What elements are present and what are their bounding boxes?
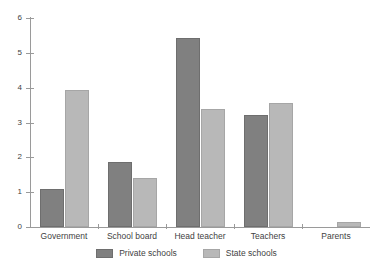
y-tick-label: 0 <box>6 223 22 231</box>
bar-head-teacher-private-schools <box>176 38 200 227</box>
legend-label: Private schools <box>119 249 177 258</box>
y-tick-label: 2 <box>6 153 22 161</box>
chart-legend: Private schoolsState schools <box>0 249 373 258</box>
bar-government-state-schools <box>65 90 89 227</box>
legend-label: State schools <box>226 249 277 258</box>
bar-teachers-state-schools <box>269 103 293 227</box>
legend-swatch-icon <box>96 249 113 258</box>
x-axis-label-government: Government <box>30 231 98 241</box>
y-tick-label: 1 <box>6 188 22 196</box>
bar-parents-state-schools <box>337 222 361 227</box>
x-axis-label-school-board: School board <box>98 231 166 241</box>
bar-head-teacher-state-schools <box>201 109 225 227</box>
legend-item-private-schools: Private schools <box>96 249 177 258</box>
bar-school-board-state-schools <box>133 178 157 227</box>
bar-government-private-schools <box>40 189 64 227</box>
legend-item-state-schools: State schools <box>203 249 277 258</box>
y-tick-label: 5 <box>6 49 22 57</box>
plot-area <box>30 18 370 227</box>
bar-school-board-private-schools <box>108 162 132 227</box>
x-axis-label-head-teacher: Head teacher <box>166 231 234 241</box>
x-axis-label-teachers: Teachers <box>234 231 302 241</box>
bar-chart: 0123456 GovernmentSchool boardHead teach… <box>0 0 373 271</box>
y-tick-mark <box>26 227 34 228</box>
chart-title-remnant <box>34 0 164 6</box>
x-axis-line <box>30 227 370 228</box>
x-axis-label-parents: Parents <box>302 231 370 241</box>
legend-swatch-icon <box>203 249 220 258</box>
y-tick-label: 3 <box>6 119 22 127</box>
bar-teachers-private-schools <box>244 115 268 227</box>
y-tick-label: 6 <box>6 14 22 22</box>
y-tick-label: 4 <box>6 84 22 92</box>
